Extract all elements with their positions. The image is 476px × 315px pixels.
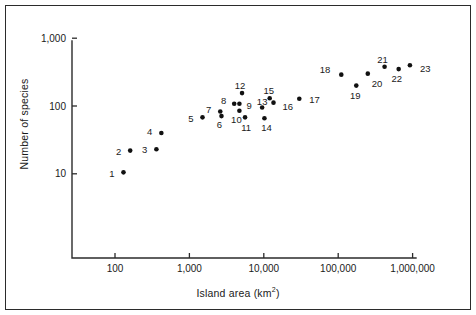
data-point-label: 8 [221,95,226,106]
data-point-label: 4 [147,126,152,137]
data-point-marker [243,115,248,120]
x-tick-label: 1,000,000 [390,263,435,274]
data-point-label: 12 [235,80,246,91]
data-point-label: 16 [282,101,293,112]
data-point-marker [237,108,242,113]
axes-group [72,41,416,258]
data-point-label: 17 [309,94,320,105]
data-point-label: 6 [217,119,222,130]
data-point-label: 18 [320,64,331,75]
data-point-marker [218,109,223,114]
plot-canvas: 1001,00010,000100,0001,000,000 101001,00… [0,0,476,315]
data-point-marker [200,115,205,120]
x-tick-label: 100 [107,263,124,274]
data-point-label: 14 [261,122,272,133]
data-point-marker [408,63,413,68]
y-tick-label: 10 [55,168,67,179]
x-axis-ticks: 1001,00010,000100,0001,000,000 [107,253,436,274]
data-point-label: 11 [241,122,251,133]
data-point-label: 9 [246,100,251,111]
data-point-marker [382,64,387,69]
data-point-label: 21 [377,54,388,65]
data-point-label: 10 [231,114,242,125]
data-point-label: 23 [420,63,431,74]
y-tick-label: 100 [49,101,66,112]
data-point-marker [297,96,302,101]
data-point-marker [154,147,159,152]
axis-lines [72,41,416,258]
y-tick-label: 1,000 [41,33,66,44]
data-point-label: 7 [206,104,211,115]
data-point-marker [366,71,371,76]
data-point-label: 3 [142,144,147,155]
data-point-marker [354,83,359,88]
data-point-marker [232,101,237,106]
data-point-label: 19 [350,90,361,101]
data-point-marker [237,101,242,106]
data-point-marker [262,116,267,121]
data-point-label: 13 [257,96,268,107]
x-axis-label-text: Island area (km [196,287,271,299]
data-point-label: 1 [109,168,114,179]
x-axis-label-tail: ) [276,287,280,299]
x-axis-label: Island area (km2) [0,286,476,299]
data-points-group: 1234567891011121314151617181920212223 [109,54,430,179]
data-point-marker [128,148,133,153]
data-point-label: 20 [372,78,383,89]
data-point-label: 22 [391,73,402,84]
y-axis-label: Number of species [18,54,30,194]
data-point-label: 15 [263,85,274,96]
x-tick-label: 10,000 [249,263,280,274]
scatter-plot-figure: 1001,00010,000100,0001,000,000 101001,00… [0,0,476,315]
data-point-marker [219,114,224,119]
data-point-marker [339,72,344,77]
data-point-label: 2 [116,146,121,157]
data-point-marker [240,91,245,96]
data-point-marker [159,131,164,136]
x-tick-label: 1,000 [177,263,202,274]
data-point-marker [267,96,272,101]
data-point-marker [271,100,276,105]
data-point-marker [396,67,401,72]
data-point-label: 5 [188,113,193,124]
data-point-marker [121,170,126,175]
x-tick-label: 100,000 [320,263,357,274]
